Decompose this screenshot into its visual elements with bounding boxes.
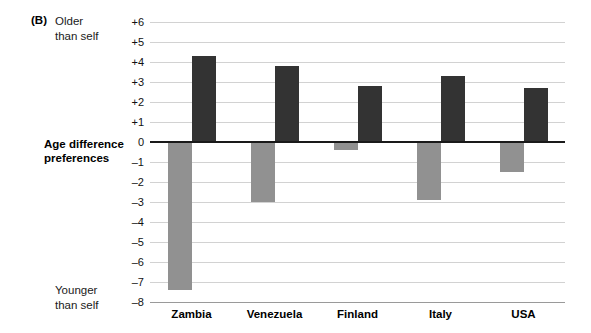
bar-younger-venezuela bbox=[251, 142, 275, 202]
chart-figure: (B) Older than self Age difference prefe… bbox=[0, 0, 591, 333]
bar-younger-italy bbox=[417, 142, 441, 200]
bar-older-italy bbox=[441, 76, 465, 142]
gridline bbox=[150, 42, 565, 43]
y-axis-tick-label: 0 bbox=[138, 136, 144, 148]
y-axis-tick-label: –2 bbox=[132, 176, 144, 188]
y-axis-tick-label: –3 bbox=[132, 196, 144, 208]
bar-younger-usa bbox=[500, 142, 524, 172]
gridline bbox=[150, 262, 565, 263]
y-axis-tick-label: +1 bbox=[131, 116, 144, 128]
x-axis-label-italy: Italy bbox=[429, 308, 452, 320]
gridline bbox=[150, 22, 565, 23]
y-axis-title: Age difference preferences bbox=[44, 137, 140, 165]
y-axis-tick-label: –8 bbox=[132, 296, 144, 308]
x-axis-label-finland: Finland bbox=[337, 308, 378, 320]
zero-axis-line bbox=[150, 141, 565, 143]
y-axis-tick-label: –6 bbox=[132, 256, 144, 268]
y-axis-tick-label: +5 bbox=[131, 36, 144, 48]
y-axis-tick-label: –1 bbox=[132, 156, 144, 168]
gridline bbox=[150, 282, 565, 283]
panel-label: (B) bbox=[31, 14, 47, 26]
x-axis-label-usa: USA bbox=[511, 308, 535, 320]
bar-older-usa bbox=[524, 88, 548, 142]
gridline bbox=[150, 242, 565, 243]
bar-younger-zambia bbox=[168, 142, 192, 290]
y-axis-tick-label: +3 bbox=[131, 76, 144, 88]
older-than-self-note: Older than self bbox=[55, 14, 98, 44]
y-axis-tick-label: +2 bbox=[131, 96, 144, 108]
gridline bbox=[150, 182, 565, 183]
bar-older-zambia bbox=[192, 56, 216, 142]
y-axis-tick-label: –5 bbox=[132, 236, 144, 248]
younger-than-self-note: Younger than self bbox=[55, 283, 98, 313]
bar-older-venezuela bbox=[275, 66, 299, 142]
y-axis-tick-label: –7 bbox=[132, 276, 144, 288]
x-axis-label-venezuela: Venezuela bbox=[247, 308, 303, 320]
bar-older-finland bbox=[358, 86, 382, 142]
gridline bbox=[150, 302, 565, 303]
gridline bbox=[150, 202, 565, 203]
y-axis-tick-label: +6 bbox=[131, 16, 144, 28]
plot-area: +6+5+4+3+2+10–1–2–3–4–5–6–7–8ZambiaVenez… bbox=[150, 22, 565, 302]
bar-younger-finland bbox=[334, 142, 358, 150]
y-axis-tick-label: +4 bbox=[131, 56, 144, 68]
y-axis-tick-label: –4 bbox=[132, 216, 144, 228]
gridline bbox=[150, 222, 565, 223]
x-axis-label-zambia: Zambia bbox=[171, 308, 211, 320]
